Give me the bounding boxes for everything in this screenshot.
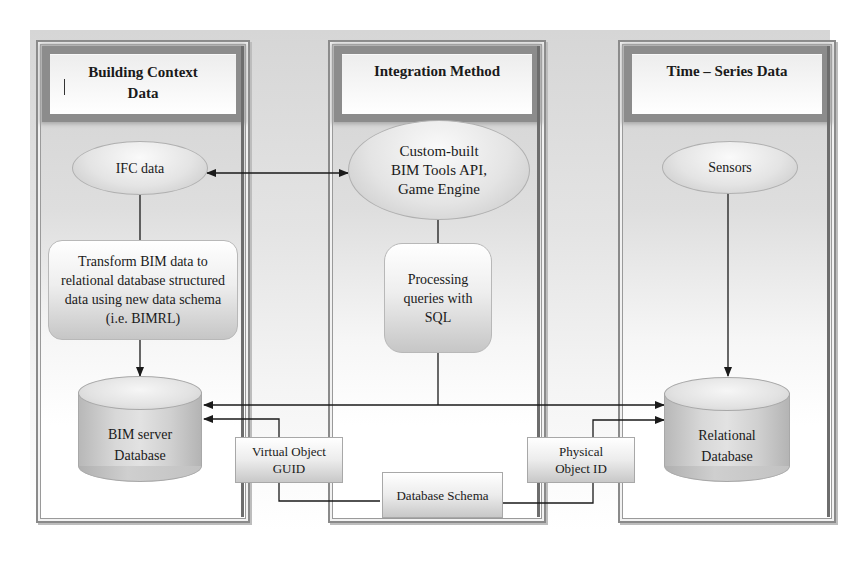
node-transform-bim: Transform BIM data to relational databas… [48, 240, 238, 340]
node-relational-database: Relational Database [664, 377, 790, 482]
node-physical-object-id: Physical Object ID [527, 437, 635, 483]
label-line3: SQL [404, 308, 473, 327]
node-sensors: Sensors [662, 141, 798, 194]
panel-header-integration-method: Integration Method [342, 54, 532, 114]
label-line3: Game Engine [391, 180, 487, 199]
label-line2: GUID [252, 460, 326, 477]
panel-title-line2: Data [50, 83, 236, 104]
node-label: Transform BIM data to relational databas… [55, 252, 231, 328]
cylinder-top [78, 376, 202, 410]
node-label: Database Schema [396, 487, 488, 504]
label-line1: Relational [664, 425, 790, 446]
node-ifc-data: IFC data [72, 141, 208, 195]
label-line2: Database [78, 445, 202, 466]
panel-title: Integration Method [342, 61, 532, 82]
label-line1: Custom-built [391, 142, 487, 161]
label-line1: Virtual Object [252, 443, 326, 460]
node-virtual-object-guid: Virtual Object GUID [235, 437, 343, 483]
label-line1: BIM server [78, 424, 202, 445]
label-line2: queries with [404, 289, 473, 308]
text-cursor-mark [64, 79, 65, 95]
panel-title-line1: Building Context [50, 62, 236, 83]
panel-header-building-context: Building Context Data [50, 54, 236, 114]
node-label: IFC data [116, 159, 165, 178]
label-line1: Physical [555, 443, 607, 460]
node-database-schema: Database Schema [382, 472, 503, 518]
node-processing-sql: Processing queries with SQL [384, 243, 492, 353]
panel-title: Time – Series Data [632, 61, 822, 82]
node-label: Sensors [708, 158, 752, 177]
label-line2: Database [664, 446, 790, 467]
node-label: Relational Database [664, 425, 790, 467]
cylinder-top [664, 377, 790, 411]
label-line2: BIM Tools API, [391, 161, 487, 180]
label-line2: Object ID [555, 460, 607, 477]
node-custom-tools: Custom-built BIM Tools API, Game Engine [348, 120, 530, 220]
panel-header-time-series: Time – Series Data [632, 54, 822, 114]
node-bim-server-database: BIM server Database [78, 376, 202, 482]
label-line1: Processing [404, 270, 473, 289]
node-label: BIM server Database [78, 424, 202, 466]
